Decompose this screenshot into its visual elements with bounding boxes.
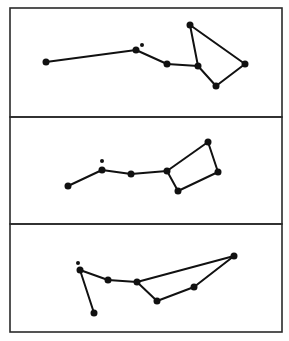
- star-dot: [43, 59, 50, 66]
- companion-star-dot: [140, 43, 144, 47]
- constellation-line: [190, 25, 245, 64]
- constellation-line: [178, 172, 218, 191]
- panel-frame: [10, 117, 282, 224]
- star-dot: [187, 22, 194, 29]
- star-dot: [77, 267, 84, 274]
- constellation-line: [102, 170, 131, 174]
- star-dot: [191, 284, 198, 291]
- star-dot: [65, 183, 72, 190]
- constellation-line: [80, 270, 94, 313]
- star-dot: [164, 168, 171, 175]
- constellation-line: [68, 170, 102, 186]
- star-dot: [154, 298, 161, 305]
- star-dot: [215, 169, 222, 176]
- constellation-line: [167, 142, 208, 171]
- panel-3-constellation: [10, 224, 282, 332]
- constellation-line: [190, 25, 198, 66]
- star-dot: [99, 167, 106, 174]
- panel-frame: [10, 224, 282, 332]
- star-dot: [105, 277, 112, 284]
- constellation-line: [46, 50, 136, 62]
- constellation-line: [136, 50, 167, 64]
- panel-2-constellation: [10, 117, 282, 224]
- panel-1-constellation: [10, 8, 282, 117]
- constellation-line: [208, 142, 218, 172]
- star-dot: [164, 61, 171, 68]
- constellation-figure: [0, 0, 289, 341]
- star-dot: [213, 83, 220, 90]
- constellation-line: [216, 64, 245, 86]
- constellation-line: [198, 66, 216, 86]
- star-dot: [231, 253, 238, 260]
- star-dot: [242, 61, 249, 68]
- star-dot: [195, 63, 202, 70]
- star-dot: [91, 310, 98, 317]
- constellation-line: [137, 282, 157, 301]
- constellation-line: [108, 280, 137, 282]
- constellation-line: [157, 287, 194, 301]
- star-dot: [134, 279, 141, 286]
- constellation-line: [137, 256, 234, 282]
- companion-star-dot: [100, 159, 104, 163]
- constellation-line: [131, 171, 167, 174]
- star-dot: [133, 47, 140, 54]
- constellation-line: [167, 64, 198, 66]
- constellation-line: [80, 270, 108, 280]
- star-dot: [128, 171, 135, 178]
- star-dot: [205, 139, 212, 146]
- star-dot: [175, 188, 182, 195]
- companion-star-dot: [76, 261, 80, 265]
